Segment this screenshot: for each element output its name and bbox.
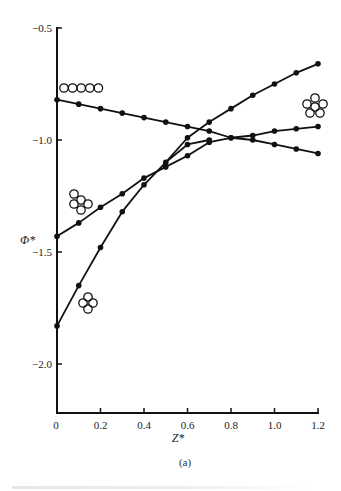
data-point-triangular-cluster [76,220,82,226]
data-point-linear-chain-cluster [76,101,82,107]
ring [77,84,85,92]
x-tick-label: 0.8 [224,419,238,431]
data-point-compact-ring-cluster [293,70,299,76]
data-point-triangular-cluster [228,135,234,141]
data-point-linear-chain-cluster [119,110,125,116]
ring [303,100,311,108]
ring [77,206,85,214]
four-circles-cross-icon [79,293,97,313]
ring [70,190,78,198]
data-point-linear-chain-cluster [98,106,104,112]
y-tick-label: −0.5 [32,22,52,34]
x-tick-label: 1.2 [311,419,325,431]
x-axis-label: Z* [172,431,185,445]
six-circles-ring-icon [303,94,327,117]
data-point-linear-chain-cluster [272,142,278,148]
data-point-triangular-cluster [272,128,278,134]
data-point-triangular-cluster [98,204,104,210]
data-point-linear-chain-cluster [141,115,147,121]
y-tick-label: −2.0 [32,358,52,370]
x-tick-label: 0.6 [181,419,195,431]
data-point-linear-chain-cluster [315,151,321,157]
y-tick-label: −1.0 [32,134,52,146]
data-point-triangular-cluster [119,191,125,197]
four-circles-triangle-icon [70,190,92,214]
data-point-linear-chain-cluster [206,128,212,134]
data-point-compact-ring-cluster [185,135,191,141]
data-point-triangular-cluster [185,153,191,159]
x-tick-label: 1.0 [268,419,282,431]
data-point-cross-cluster [185,142,191,148]
data-point-triangular-cluster [293,126,299,132]
ring [306,109,314,117]
data-point-linear-chain-cluster [293,146,299,152]
data-point-cross-cluster [76,283,82,289]
ring [60,84,68,92]
branch-connector [166,138,188,163]
series-points [54,61,321,329]
data-point-compact-ring-cluster [315,61,321,67]
data-point-cross-cluster [206,137,212,143]
data-point-cross-cluster [141,182,147,188]
data-point-cross-cluster [54,323,60,329]
ring [319,100,327,108]
subfigure-label: (a) [179,456,192,469]
y-tick-label: −1.5 [32,246,52,258]
data-point-linear-chain-cluster [185,124,191,130]
ring [86,84,94,92]
ring [311,94,319,102]
x-tick-label: 0.4 [137,419,151,431]
ring [84,200,92,208]
x-ticks: 00.20.40.60.81.01.2 [53,408,325,431]
x-tick-label: 0 [53,419,59,431]
faint-caption-line [12,486,312,489]
ring [70,200,78,208]
data-point-compact-ring-cluster [250,92,256,98]
series-line-cross-cluster [57,140,209,326]
data-point-triangular-cluster [141,175,147,181]
ring [94,84,102,92]
ring [84,305,92,313]
data-point-compact-ring-cluster [228,106,234,112]
data-point-triangular-cluster [250,133,256,139]
data-point-linear-chain-cluster [54,97,60,103]
series-line-compact-ring-cluster [188,64,319,138]
data-point-compact-ring-cluster [206,119,212,125]
ring [68,84,76,92]
series-lines [57,64,318,326]
y-axis-label: Φ* [20,233,35,247]
data-point-linear-chain-cluster [163,119,169,125]
data-point-triangular-cluster [315,124,321,130]
chart: −0.5−1.0−1.5−2.0 00.20.40.60.81.01.2 Φ* … [0,0,341,491]
data-point-cross-cluster [98,245,104,251]
data-point-compact-ring-cluster [272,81,278,87]
data-point-triangular-cluster [54,234,60,240]
data-point-cross-cluster [163,160,169,166]
data-point-cross-cluster [119,209,125,215]
five-circles-in-row-icon [60,84,103,92]
ring [316,109,324,117]
x-tick-label: 0.2 [94,419,108,431]
cluster-icons [60,84,327,313]
